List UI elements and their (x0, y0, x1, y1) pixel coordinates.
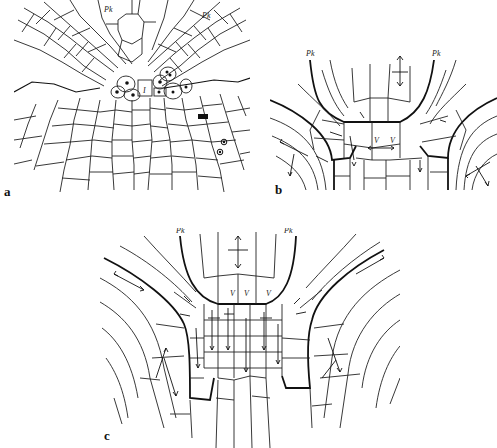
label-pk-left: Pk (175, 228, 185, 235)
panel-c-drawing: Pk Pk V V V (100, 228, 400, 448)
label-pk-left: Pk (103, 5, 113, 14)
label-v-1: V (230, 289, 236, 298)
label-pk-right: Pk (201, 11, 211, 20)
panel-c: Pk Pk V V V (100, 228, 400, 448)
panel-letter-a: a (4, 184, 11, 200)
panel-b-drawing: Pk Pk V V (270, 50, 497, 200)
panel-letter-c: c (104, 428, 110, 444)
label-v-3: V (266, 289, 272, 298)
label-v-left: V (374, 136, 380, 145)
panel-a: I (14, 0, 250, 195)
panel-b: Pk Pk V V (270, 50, 497, 200)
label-initial: I (142, 86, 146, 95)
panel-letter-b: b (275, 182, 282, 198)
label-pk-left: Pk (305, 50, 315, 58)
panel-a-drawing: I (14, 0, 250, 195)
label-v-right: V (390, 136, 396, 145)
label-pk-right: Pk (283, 228, 293, 235)
label-pk-right: Pk (431, 50, 441, 58)
label-v-2: V (244, 289, 250, 298)
